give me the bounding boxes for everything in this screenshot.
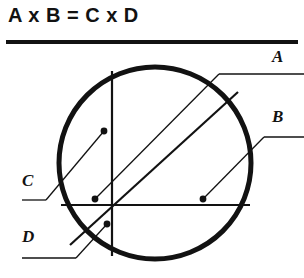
leader-c-diagonal xyxy=(46,131,104,200)
leader-d-dot xyxy=(104,221,111,228)
label-a: A xyxy=(272,48,283,65)
label-d: D xyxy=(22,228,34,245)
circle-chord-diagram xyxy=(0,0,304,278)
figure-page: A x B = C x D A B C D xyxy=(0,0,304,278)
leader-line-a xyxy=(92,74,304,202)
leader-a-dot xyxy=(92,196,99,203)
leader-b-dot xyxy=(200,196,207,203)
leader-b-diagonal xyxy=(203,137,264,199)
label-b: B xyxy=(272,108,283,125)
leader-a-diagonal xyxy=(95,74,219,199)
label-c: C xyxy=(22,172,33,189)
leader-c-dot xyxy=(101,128,108,135)
diagonal-chord xyxy=(70,92,238,245)
